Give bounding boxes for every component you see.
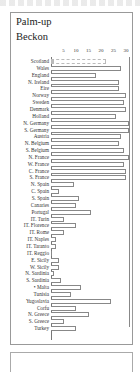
bar bbox=[51, 66, 121, 71]
bar bbox=[51, 148, 124, 153]
bar bbox=[51, 155, 129, 160]
bar bbox=[51, 86, 119, 91]
bar bbox=[51, 162, 124, 167]
x-tick-label: 10 bbox=[74, 48, 79, 53]
bar bbox=[51, 285, 81, 290]
bar bbox=[51, 230, 64, 235]
bar bbox=[51, 121, 129, 126]
bar bbox=[51, 312, 89, 317]
bar bbox=[51, 217, 64, 222]
bar bbox=[51, 73, 96, 78]
bar bbox=[51, 306, 76, 311]
chart-title-line-2: Beckon bbox=[16, 29, 52, 44]
chart-title: Palm-up Beckon bbox=[16, 14, 52, 44]
bar bbox=[51, 100, 124, 105]
bar bbox=[51, 292, 71, 297]
x-tick-label: 25 bbox=[111, 48, 116, 53]
bar bbox=[51, 93, 126, 98]
bar bbox=[51, 278, 61, 283]
bar bbox=[51, 175, 126, 180]
bar bbox=[51, 114, 116, 119]
x-axis-ticks: 51015202530 bbox=[0, 48, 140, 56]
x-tick-label: 5 bbox=[62, 48, 65, 53]
bar bbox=[51, 169, 126, 174]
bar bbox=[51, 203, 76, 208]
bar bbox=[51, 210, 91, 215]
bar bbox=[51, 258, 59, 263]
bar bbox=[51, 196, 79, 201]
bar bbox=[51, 141, 119, 146]
bar bbox=[51, 128, 129, 133]
page-edge-strip bbox=[0, 0, 140, 6]
bar bbox=[51, 80, 119, 85]
x-tick-label: 30 bbox=[124, 48, 129, 53]
bar-row: Turkey bbox=[0, 325, 140, 332]
bar bbox=[51, 59, 106, 64]
next-chart-frame bbox=[10, 352, 133, 372]
bar bbox=[51, 182, 74, 187]
bar bbox=[51, 134, 121, 139]
bar bbox=[51, 107, 126, 112]
bar bbox=[51, 326, 76, 331]
bar bbox=[51, 265, 59, 270]
bar bbox=[51, 189, 59, 194]
bar bbox=[51, 251, 52, 256]
chart-title-line-1: Palm-up bbox=[16, 14, 52, 29]
bar bbox=[51, 244, 56, 249]
bar bbox=[51, 299, 111, 304]
bar bbox=[51, 237, 56, 242]
category-label: Turkey bbox=[34, 325, 49, 332]
x-tick-label: 20 bbox=[99, 48, 104, 53]
bar bbox=[51, 271, 54, 276]
x-tick-label: 15 bbox=[86, 48, 91, 53]
bar bbox=[51, 223, 76, 228]
bar bbox=[51, 319, 64, 324]
